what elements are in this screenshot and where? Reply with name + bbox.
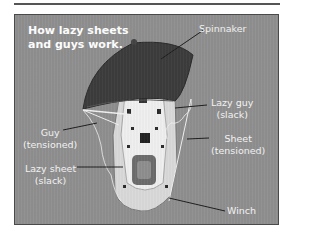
top-rule xyxy=(14,3,280,5)
label-sheet: Sheet (tensioned) xyxy=(211,133,265,157)
label-winch: Winch xyxy=(227,205,256,217)
label-spinnaker: Spinnaker xyxy=(199,23,246,35)
label-guy: Guy (tensioned) xyxy=(23,127,77,151)
label-lazy-guy: Lazy guy (slack) xyxy=(211,97,253,121)
diagram-panel: How lazy sheets and guys work. xyxy=(14,14,279,225)
spinnaker-sail xyxy=(83,42,193,109)
label-lazy-sheet: Lazy sheet (slack) xyxy=(25,163,76,187)
